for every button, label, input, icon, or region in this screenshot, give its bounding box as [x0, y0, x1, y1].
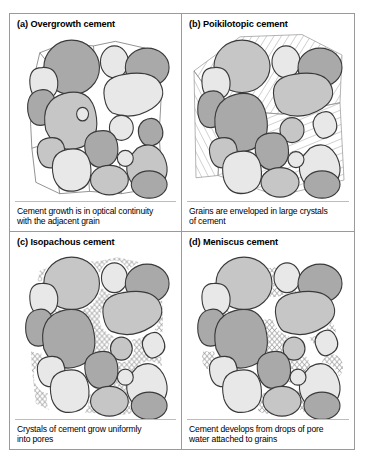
panel-b-title: (b) Poikilotopic cement: [182, 14, 354, 30]
panel-a-illustration: [10, 30, 181, 201]
isopachous-cement-diagram: [10, 248, 181, 420]
panel-b-caption-line-2: of cement: [189, 216, 347, 226]
figure-container: (a) Overgrowth cement: [9, 13, 355, 450]
panel-b-poikilotopic-cement: (b) Poikilotopic cement: [182, 14, 354, 232]
overgrowth-cement-diagram: [10, 30, 181, 201]
panel-d-title: (d) Meniscus cement: [182, 232, 354, 248]
panel-a-overgrowth-cement: (a) Overgrowth cement: [10, 14, 182, 232]
meniscus-cement-diagram: [182, 248, 354, 420]
panel-d-caption-line-1: Cement develops from drops of pore: [189, 424, 347, 434]
panel-c-isopachous-cement: (c) Isopachous cement: [10, 232, 182, 450]
panel-c-caption-line-2: into pores: [17, 434, 174, 444]
panel-a-caption-line-1: Cement growth is in optical continuity: [17, 206, 174, 216]
panel-c-caption-line-1: Crystals of cement grow uniformly: [17, 424, 174, 434]
panel-b-illustration: [182, 30, 354, 201]
panel-a-caption: Cement growth is in optical continuity w…: [15, 201, 176, 231]
poikilotopic-cement-diagram: [182, 30, 354, 201]
panel-d-meniscus-cement: (d) Meniscus cement: [182, 232, 354, 450]
panel-b-caption-line-1: Grains are enveloped in large crystals: [189, 206, 347, 216]
panel-d-illustration: [182, 248, 354, 420]
panel-a-caption-line-2: with the adjacent grain: [17, 216, 174, 226]
panel-c-caption: Crystals of cement grow uniformly into p…: [15, 419, 176, 449]
panel-d-caption: Cement develops from drops of pore water…: [187, 419, 349, 449]
panel-c-illustration: [10, 248, 181, 420]
panel-d-caption-line-2: water attached to grains: [189, 434, 347, 444]
panel-c-title: (c) Isopachous cement: [10, 232, 181, 248]
panel-b-caption: Grains are enveloped in large crystals o…: [187, 201, 349, 231]
panel-a-title: (a) Overgrowth cement: [10, 14, 181, 30]
